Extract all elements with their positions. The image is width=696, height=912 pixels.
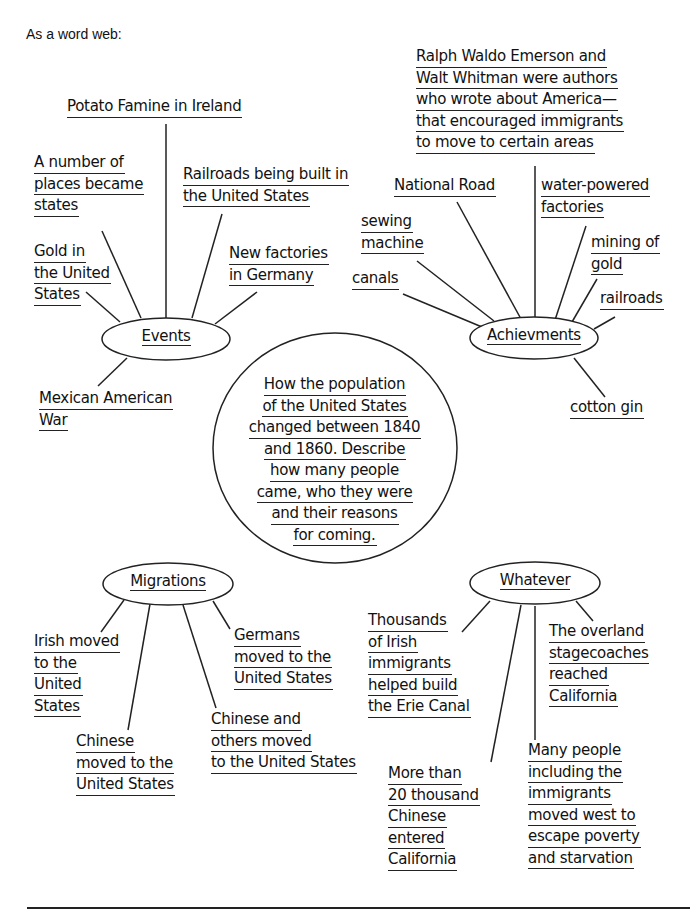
achievements-item-railroads: railroads (600, 288, 664, 310)
item-line: to the United States (211, 752, 357, 774)
center-line: changed between 1840 (249, 417, 421, 439)
item-line: Chinese (388, 806, 447, 828)
item-line: to the (34, 653, 78, 675)
item-line: United (34, 674, 83, 696)
item-line: stagecoaches (549, 643, 649, 665)
item-line: Chinese and (211, 709, 302, 731)
bottom-divider (27, 907, 690, 909)
item-line: United States (234, 668, 333, 690)
whatever-item-chinese-california: More than 20 thousand Chinese entered Ca… (388, 763, 480, 871)
item-line: moved to the (76, 753, 174, 775)
item-line: water-powered (541, 175, 650, 197)
item-line: railroads (600, 288, 664, 310)
achievements-item-authors: Ralph Waldo Emerson and Walt Whitman wer… (416, 46, 624, 154)
migrations-item-chinese: Chinese moved to the United States (76, 731, 175, 796)
item-line: Chinese (76, 731, 135, 753)
item-line: States (34, 696, 81, 718)
item-line: New factories (229, 243, 329, 265)
center-line: and their reasons (271, 503, 398, 525)
item-line: Irish moved (34, 631, 120, 653)
item-line: More than (388, 763, 462, 785)
events-item-mexican-war: Mexican American War (39, 388, 173, 431)
migrations-item-chinese-others: Chinese and others moved to the United S… (211, 709, 357, 774)
item-line: Ralph Waldo Emerson and (416, 46, 607, 68)
item-line: escape poverty (528, 826, 641, 848)
migrations-item-irish: Irish moved to the United States (34, 631, 120, 717)
item-line: Thousands (368, 610, 448, 632)
center-line: How the population (264, 374, 406, 396)
item-line: California (549, 686, 618, 708)
whatever-node: Whatever (470, 571, 600, 589)
whatever-node-label: Whatever (500, 571, 571, 590)
events-node-label: Events (142, 327, 191, 346)
achievements-item-sewing-machine: sewing machine (361, 211, 424, 254)
item-line: others moved (211, 731, 312, 753)
item-line: of Irish (368, 632, 418, 654)
item-line: entered (388, 828, 445, 850)
migrations-node: Migrations (103, 572, 233, 590)
item-line: Germans (234, 625, 301, 647)
item-line: the Erie Canal (368, 696, 471, 718)
events-item-factories-germany: New factories in Germany (229, 243, 329, 286)
item-line: moved to the (234, 647, 332, 669)
events-item-states: A number of places became states (34, 152, 144, 217)
item-line: States (34, 284, 81, 306)
item-line: helped build (368, 675, 458, 697)
center-line: and 1860. Describe (264, 439, 406, 461)
item-line: states (34, 195, 79, 217)
center-line: came, who they were (257, 482, 414, 504)
item-line: to move to certain areas (416, 132, 595, 154)
achievements-item-canals: canals (352, 268, 399, 290)
whatever-item-stagecoaches: The overland stagecoaches reached Califo… (549, 621, 649, 707)
item-line: moved west to (528, 805, 636, 827)
achievements-item-cotton-gin: cotton gin (570, 397, 644, 419)
item-line: the United States (183, 186, 310, 208)
item-line: gold (591, 254, 623, 276)
item-line: machine (361, 233, 424, 255)
achievements-node: Achievments (470, 326, 598, 344)
item-line: factories (541, 197, 604, 219)
item-line: who wrote about America— (416, 89, 618, 111)
achievements-node-label: Achievments (487, 326, 581, 345)
center-line: of the United States (262, 396, 407, 418)
item-line: including the (528, 762, 623, 784)
events-item-gold: Gold in the United States (34, 241, 111, 306)
item-line: in Germany (229, 265, 314, 287)
item-line: and starvation (528, 848, 634, 870)
item-line: War (39, 410, 68, 432)
migrations-node-label: Migrations (130, 572, 206, 591)
achievements-item-water-factories: water-powered factories (541, 175, 650, 218)
item-line: Mexican American (39, 388, 173, 410)
item-line: National Road (394, 175, 496, 197)
item-line: United States (76, 774, 175, 796)
item-line: Walt Whitman were authors (416, 68, 618, 90)
item-line: Many people (528, 740, 622, 762)
item-line: Gold in (34, 241, 86, 263)
item-line: the United (34, 263, 111, 285)
center-line: for coming. (293, 525, 376, 547)
migrations-item-germans: Germans moved to the United States (234, 625, 333, 690)
center-topic: How the population of the United States … (213, 374, 457, 546)
events-item-potato-famine: Potato Famine in Ireland (67, 96, 242, 118)
whatever-item-moved-west: Many people including the immigrants mov… (528, 740, 641, 869)
item-line: immigrants (528, 783, 612, 805)
item-line: 20 thousand (388, 785, 480, 807)
achievements-item-national-road: National Road (394, 175, 496, 197)
item-line: mining of (591, 232, 660, 254)
item-line: California (388, 849, 457, 871)
item-line: immigrants (368, 653, 452, 675)
center-line: how many people (270, 460, 400, 482)
item-line: that encouraged immigrants (416, 111, 624, 133)
item-line: places became (34, 174, 144, 196)
events-item-railroads: Railroads being built in the United Stat… (183, 164, 349, 207)
item-line: sewing (361, 211, 413, 233)
item-line: Potato Famine in Ireland (67, 96, 242, 118)
events-node: Events (102, 327, 230, 345)
whatever-item-erie-canal: Thousands of Irish immigrants helped bui… (368, 610, 471, 718)
item-line: cotton gin (570, 397, 644, 419)
item-line: reached (549, 664, 609, 686)
item-line: The overland (549, 621, 645, 643)
achievements-item-mining-gold: mining of gold (591, 232, 660, 275)
item-line: Railroads being built in (183, 164, 349, 186)
item-line: canals (352, 268, 399, 290)
